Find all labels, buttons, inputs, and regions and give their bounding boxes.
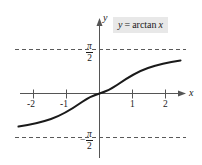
- legend-function-name: arctan: [132, 19, 156, 30]
- fraction-numerator-pi: π: [86, 130, 93, 140]
- plot-canvas: [0, 0, 202, 165]
- y-axis-arrowhead: [97, 18, 103, 26]
- x-tick-label-minus2: -2: [27, 100, 35, 110]
- fraction-numerator-pi: π: [86, 42, 93, 52]
- equation-legend-box: y = arctan x: [113, 17, 168, 33]
- x-tick-label-2: 2: [163, 100, 168, 110]
- y-axis-label: y: [103, 13, 107, 23]
- x-tick-label-1: 1: [130, 100, 135, 110]
- x-axis-arrowhead: [178, 91, 186, 97]
- arctan-graph-figure: y = arctan x x y -2 -1 1 2 π 2 − π 2: [0, 0, 202, 165]
- fraction-pi-over-2: π 2: [86, 42, 93, 63]
- x-axis-label: x: [189, 88, 193, 98]
- fraction-pi-over-2-negative: π 2: [86, 130, 93, 151]
- fraction-denominator-two: 2: [87, 53, 92, 63]
- y-tick-label-pi-over-2: π 2: [86, 42, 93, 63]
- y-tick-label-negative-pi-over-2: − π 2: [80, 130, 93, 151]
- legend-x-symbol: x: [159, 19, 163, 30]
- minus-sign: −: [80, 135, 85, 146]
- x-tick-label-minus1: -1: [60, 100, 68, 110]
- fraction-denominator-two: 2: [87, 141, 92, 151]
